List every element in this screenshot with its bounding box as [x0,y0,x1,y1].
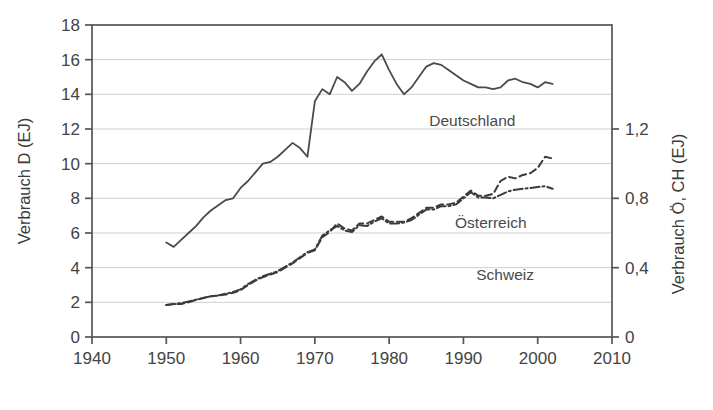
y-axis-left-ticks: 024681012141618 [61,16,92,347]
y-tick-label: 18 [61,16,80,35]
x-tick-label: 1990 [445,349,483,368]
x-tick-label: 1950 [147,349,185,368]
annotation-schweiz: Schweiz [476,266,534,283]
y-tick-label: 14 [61,85,80,104]
x-tick-label: 2000 [519,349,557,368]
series-line-schweiz [166,186,552,305]
y-tick-label: 10 [61,155,80,174]
annotation-sterreich: Österreich [455,214,527,231]
y-axis-title: Verbrauch D (EJ) [15,118,33,245]
x-tick-label: 1960 [222,349,260,368]
y2-tick-label: 0 [625,328,634,347]
plot-frame [92,25,612,337]
y-tick-label: 4 [71,259,80,278]
x-tick-label: 1980 [370,349,408,368]
x-tick-label: 1970 [296,349,334,368]
y2-tick-label: 0,8 [625,189,649,208]
y2-tick-label: 0,4 [625,259,649,278]
y-tick-label: 6 [71,224,80,243]
chart-container: 19401950196019701980199020002010 0246810… [0,0,713,410]
line-chart: 19401950196019701980199020002010 0246810… [0,0,713,410]
x-tick-label: 2010 [593,349,631,368]
y-axis-right-ticks: 00,40,81,2 [612,120,649,347]
y2-axis-title: Verbrauch Ö, CH (EJ) [669,134,687,294]
x-axis-ticks: 19401950196019701980199020002010 [73,337,631,368]
y2-tick-label: 1,2 [625,120,649,139]
y-tick-label: 12 [61,120,80,139]
x-tick-label: 1940 [73,349,111,368]
y-tick-label: 0 [71,328,80,347]
y-tick-label: 16 [61,51,80,70]
frame-rect [92,25,612,337]
gridlines-group [92,60,612,303]
y-tick-label: 8 [71,189,80,208]
annotation-deutschland: Deutschland [429,112,515,129]
y-tick-label: 2 [71,293,80,312]
